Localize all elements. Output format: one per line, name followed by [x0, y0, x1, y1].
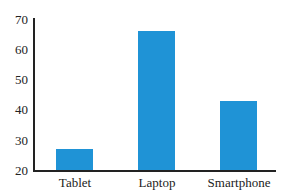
x-axis-line [33, 170, 276, 172]
bar-tablet [56, 149, 93, 170]
y-tick-label: 20 [2, 164, 28, 177]
y-tick-label: 60 [2, 43, 28, 56]
y-axis-line [33, 18, 35, 171]
x-category-label: Laptop [112, 176, 202, 189]
bar-smartphone [220, 101, 257, 170]
y-tick-label: 30 [2, 134, 28, 147]
x-category-label: Tablet [30, 176, 120, 189]
x-category-label: Smartphone [194, 176, 284, 189]
bar-laptop [138, 31, 175, 170]
y-tick-label: 40 [2, 103, 28, 116]
y-tick-label: 50 [2, 73, 28, 86]
y-tick-label: 70 [2, 13, 28, 26]
bar-chart: 70 60 50 40 30 20 Tablet Laptop Smartpho… [0, 0, 295, 193]
